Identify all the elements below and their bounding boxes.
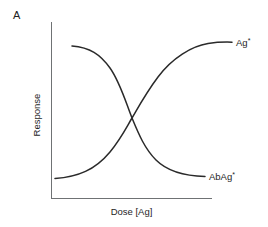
curve-label-ag-text: Ag xyxy=(236,37,248,48)
curve-label-abag: AbAg* xyxy=(209,171,235,182)
curve-label-abag-text: AbAg xyxy=(209,171,232,182)
curve-label-ag-superscript: * xyxy=(248,37,251,44)
curve-ag-ascending xyxy=(55,42,232,178)
y-axis-label: Response xyxy=(31,94,42,137)
x-axis-label: Dose [Ag] xyxy=(111,206,153,217)
curve-label-ag: Ag* xyxy=(236,37,251,48)
curve-label-abag-superscript: * xyxy=(232,171,235,178)
figure-panel: A Ag* AbAg* Dose [Ag] Response xyxy=(0,0,268,227)
curve-abag-descending xyxy=(72,46,205,177)
dose-response-chart: Ag* AbAg* Dose [Ag] Response xyxy=(0,0,268,227)
